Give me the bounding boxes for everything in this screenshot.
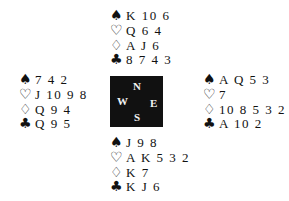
north-hearts-row: ♡Q 6 4 [110,23,162,38]
north-diamonds-cards: A J 6 [126,38,160,53]
spade-icon: ♠ [19,72,35,87]
west-diamonds-cards: Q 9 4 [35,102,71,117]
south-diamonds-cards: K 7 [126,165,150,180]
west-hearts-cards: J 10 9 8 [35,87,88,102]
north-clubs-row: ♣8 7 4 3 [110,52,172,67]
east-clubs-row: ♣A 10 2 [203,116,263,131]
south-spades-cards: J 9 8 [126,135,158,150]
spade-icon: ♠ [110,8,126,23]
south-clubs-cards: K J 6 [126,179,161,194]
heart-icon: ♡ [110,150,126,165]
west-clubs-cards: Q 9 5 [35,116,71,131]
south-clubs-row: ♣K J 6 [110,179,161,194]
club-icon: ♣ [110,179,126,194]
heart-icon: ♡ [203,87,219,102]
club-icon: ♣ [203,116,219,131]
club-icon: ♣ [19,116,35,131]
compass-west-label: W [117,96,128,107]
spade-icon: ♠ [203,72,219,87]
south-hearts-cards: A K 5 3 2 [126,150,190,165]
north-clubs-cards: 8 7 4 3 [126,52,172,67]
west-spades-cards: 7 4 2 [35,72,69,87]
compass-table: N W E S [110,76,163,127]
west-hearts-row: ♡J 10 9 8 [19,87,88,102]
compass-east-label: E [150,98,157,109]
east-hearts-row: ♡7 [203,87,227,102]
east-spades-cards: A Q 5 3 [219,72,270,87]
compass-south-label: S [134,112,140,123]
south-spades-row: ♠J 9 8 [110,135,158,150]
east-spades-row: ♠A Q 5 3 [203,72,270,87]
heart-icon: ♡ [19,87,35,102]
north-spades-cards: K 10 6 [126,8,170,23]
south-hearts-row: ♡A K 5 3 2 [110,150,190,165]
east-hearts-cards: 7 [219,87,227,102]
north-hearts-cards: Q 6 4 [126,23,162,38]
north-spades-row: ♠K 10 6 [110,8,170,23]
west-clubs-row: ♣Q 9 5 [19,116,71,131]
east-clubs-cards: A 10 2 [219,116,263,131]
east-diamonds-cards: 10 8 5 3 2 [219,102,286,117]
club-icon: ♣ [110,52,126,67]
heart-icon: ♡ [110,23,126,38]
spade-icon: ♠ [110,135,126,150]
west-spades-row: ♠7 4 2 [19,72,69,87]
compass-north-label: N [133,81,141,92]
